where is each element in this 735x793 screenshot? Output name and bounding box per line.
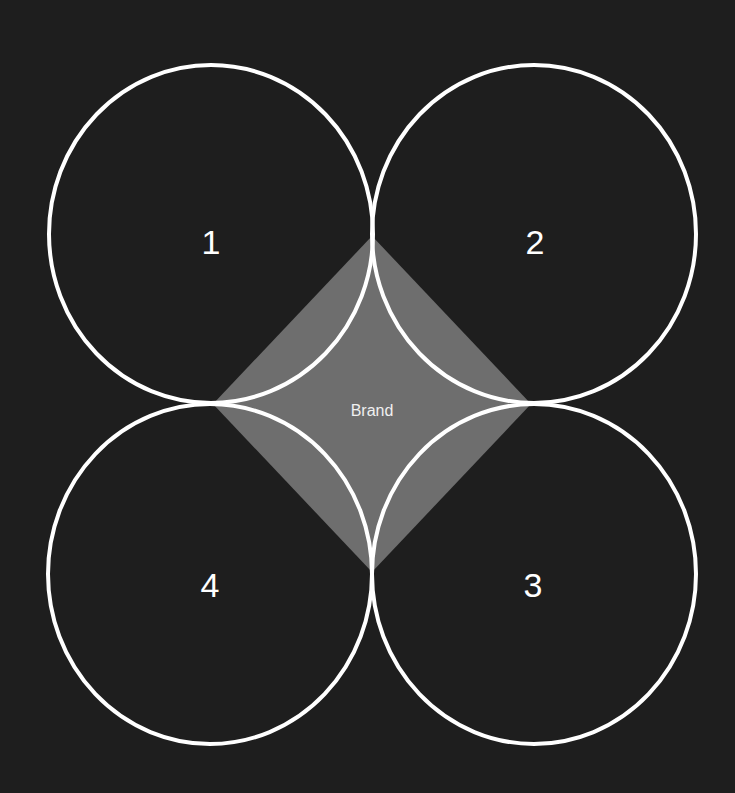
circle-3-label: 3 (524, 566, 543, 604)
circle-4-label: 4 (201, 566, 220, 604)
brand-label: Brand (351, 402, 394, 419)
circle-2-label: 2 (526, 223, 545, 261)
circle-1-label: 1 (202, 223, 221, 261)
four-circle-brand-diagram: 1 2 3 4 Brand (0, 0, 735, 793)
